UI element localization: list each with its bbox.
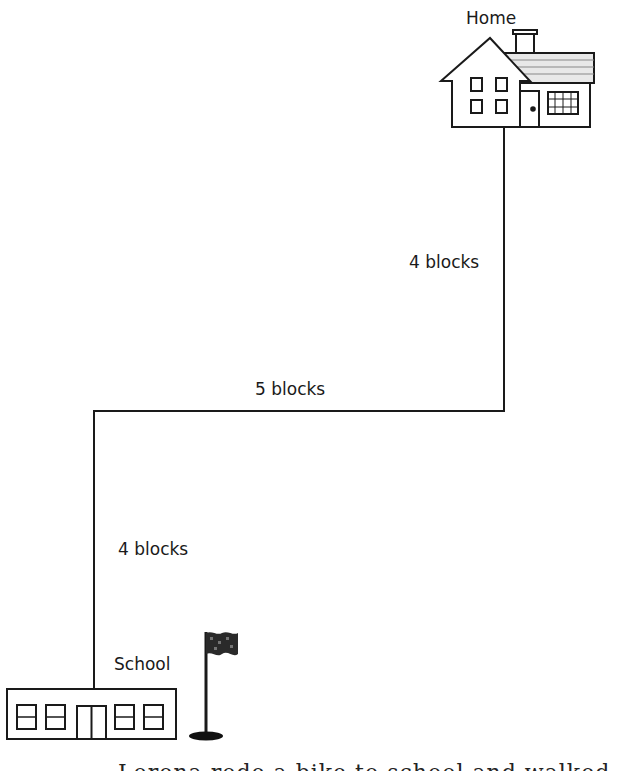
house-icon (441, 30, 594, 127)
home-label: Home (466, 8, 516, 28)
school-door (77, 706, 106, 739)
caption-clipped: Lorena rode a bike to school and walked … (0, 758, 617, 771)
segment-label-home-down: 4 blocks (409, 252, 479, 272)
segment-label-school-up: 4 blocks (118, 539, 188, 559)
route-path (94, 126, 505, 689)
flag-icon (189, 632, 238, 741)
school-building-icon (7, 689, 176, 739)
caption-text: Lorena rode a bike to school and walked … (118, 760, 617, 771)
segment-label-middle-across: 5 blocks (255, 379, 325, 399)
school-label: School (114, 654, 170, 674)
